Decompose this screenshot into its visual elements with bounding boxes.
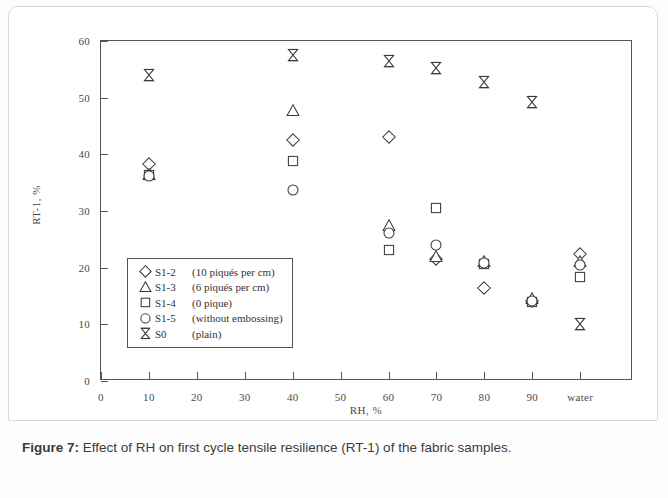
data-point-s1-4 — [286, 154, 300, 168]
y-tick-mark — [101, 154, 108, 155]
y-tick-label: 10 — [78, 318, 90, 330]
data-point-s1-2 — [286, 133, 300, 147]
x-tick-mark — [197, 372, 198, 379]
data-point-s1-3 — [286, 104, 300, 118]
data-point-s1-3 — [573, 255, 587, 269]
x-tick-label: 50 — [335, 391, 347, 403]
x-tick-mark — [341, 372, 342, 379]
circle-marker-icon — [135, 312, 155, 325]
data-point-s0 — [142, 68, 156, 82]
data-point-s1-3 — [382, 219, 396, 233]
y-axis-label: RT-1, % — [30, 185, 42, 225]
legend-item-s1-2: S1-2(10 piqués per cm) — [135, 264, 283, 280]
data-point-s1-2 — [382, 130, 396, 144]
square-marker-icon — [135, 296, 155, 309]
y-tick-label: 60 — [78, 35, 90, 47]
x-tick-label: water — [567, 391, 593, 403]
y-tick-mark — [101, 98, 108, 99]
data-point-s0 — [286, 48, 300, 62]
data-point-s1-3 — [142, 168, 156, 182]
x-tick-mark — [293, 372, 294, 379]
diamond-marker-icon — [135, 265, 155, 278]
data-point-s1-4 — [525, 295, 539, 309]
data-point-s1-3 — [525, 292, 539, 306]
x-tick-label: 20 — [191, 391, 203, 403]
x-tick-label: 10 — [143, 391, 155, 403]
data-point-s1-5 — [382, 226, 396, 240]
legend-series-description: (6 piqués per cm) — [192, 281, 269, 293]
y-tick-mark — [101, 268, 108, 269]
y-tick-label: 20 — [78, 262, 90, 274]
x-tick-label: 90 — [527, 391, 539, 403]
y-tick-mark — [101, 381, 108, 382]
figure-caption-text: Effect of RH on first cycle tensile resi… — [79, 440, 511, 455]
data-point-s1-5 — [573, 258, 587, 272]
data-point-s1-4 — [573, 270, 587, 284]
x-tick-mark — [532, 372, 533, 379]
data-point-s1-4 — [142, 168, 156, 182]
x-tick-label: 80 — [479, 391, 491, 403]
y-tick-label: 30 — [78, 205, 90, 217]
x-axis-label: RH, % — [350, 404, 382, 416]
x-tick-label: 40 — [287, 391, 299, 403]
data-point-s1-2 — [525, 294, 539, 308]
data-point-s1-4 — [382, 243, 396, 257]
x-tick-mark — [580, 372, 581, 379]
scanned-page: RT-1, % RH, % 0102030405060 010203040506… — [0, 0, 668, 498]
data-point-s1-3 — [477, 255, 491, 269]
x-tick-mark — [484, 372, 485, 379]
legend-series-name: S1-5 — [155, 312, 192, 324]
legend-item-s1-5: S1-5(without embossing) — [135, 311, 283, 327]
data-point-s1-5 — [525, 294, 539, 308]
data-point-s0 — [382, 54, 396, 68]
x-tick-label: 60 — [383, 391, 395, 403]
x-tick-label: 30 — [239, 391, 251, 403]
legend-series-description: (10 piqués per cm) — [192, 266, 275, 278]
data-point-s0 — [429, 61, 443, 75]
legend-series-description: (plain) — [192, 328, 221, 340]
data-point-s1-5 — [477, 256, 491, 270]
triangle-marker-icon — [135, 281, 155, 294]
legend-series-name: S1-3 — [155, 281, 192, 293]
legend-series-description: (without embossing) — [192, 312, 283, 324]
chart-figure: RT-1, % RH, % 0102030405060 010203040506… — [0, 0, 668, 425]
y-tick-mark — [101, 324, 108, 325]
data-point-s1-2 — [142, 157, 156, 171]
y-tick-mark — [101, 41, 108, 42]
legend-item-s1-4: S1-4(0 pique) — [135, 295, 283, 311]
legend-series-name: S0 — [155, 328, 192, 340]
x-tick-mark — [389, 372, 390, 379]
x-tick-mark — [245, 372, 246, 379]
x-tick-mark — [436, 372, 437, 379]
y-tick-label: 40 — [78, 148, 90, 160]
x-tick-label: 70 — [431, 391, 443, 403]
data-point-s0 — [477, 75, 491, 89]
x-tick-label: 0 — [98, 391, 104, 403]
figure-caption: Figure 7: Effect of RH on first cycle te… — [22, 437, 647, 458]
data-point-s0 — [525, 95, 539, 109]
data-point-s1-4 — [477, 257, 491, 271]
bowtie-marker-icon — [135, 327, 155, 340]
data-point-s1-2 — [429, 252, 443, 266]
x-tick-mark — [149, 372, 150, 379]
y-tick-label: 50 — [78, 92, 90, 104]
data-point-s1-5 — [429, 238, 443, 252]
legend-item-s1-3: S1-3(6 piqués per cm) — [135, 280, 283, 296]
legend-item-s0: S0(plain) — [135, 326, 283, 342]
data-point-s1-4 — [429, 201, 443, 215]
data-point-s0 — [573, 317, 587, 331]
legend-series-name: S1-4 — [155, 297, 192, 309]
legend-series-description: (0 pique) — [192, 297, 232, 309]
data-point-s1-2 — [477, 281, 491, 295]
figure-number: Figure 7: — [22, 440, 79, 455]
data-point-s1-2 — [573, 247, 587, 261]
x-tick-mark — [101, 372, 102, 379]
y-tick-mark — [101, 211, 108, 212]
data-point-s1-3 — [429, 250, 443, 264]
legend-series-name: S1-2 — [155, 266, 192, 278]
data-point-s1-5 — [286, 183, 300, 197]
chart-legend: S1-2(10 piqués per cm)S1-3(6 piqués per … — [127, 258, 293, 348]
y-tick-label: 0 — [84, 375, 90, 387]
data-point-s1-5 — [142, 169, 156, 183]
